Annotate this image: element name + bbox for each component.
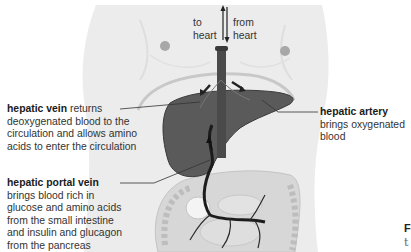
hepatic-artery-term: hepatic artery	[320, 106, 388, 117]
vena-cava-top	[215, 46, 228, 51]
hepatic-portal-vein-label: hepatic portal vein brings blood rich in…	[7, 177, 137, 252]
hepatic-artery-desc-2: blood	[320, 131, 411, 144]
hepatic-vein-term: hepatic vein	[7, 103, 67, 114]
hepatic-vein-desc-3: acids to enter the circulation	[7, 141, 157, 154]
portal-vein-desc-5: from the pancreas	[7, 240, 137, 252]
portal-vein-desc-4: and insulin and glucagon	[7, 227, 137, 240]
to-heart-label: to heart	[193, 17, 217, 42]
right-nipple	[280, 46, 290, 56]
portal-vein-desc-2: glucose and amino acids	[7, 202, 137, 215]
liver-blood-supply-diagram: to heart from heart hepatic vein returns…	[0, 0, 411, 252]
hepatic-vein-desc-2: circulation and allows amino	[7, 128, 157, 141]
hepatic-vein-label: hepatic vein returns deoxygenated blood …	[7, 103, 157, 153]
portal-vein-desc-3: from the small intestine	[7, 215, 137, 228]
to-heart-line-1: to	[193, 17, 217, 30]
cutoff-text-1: F	[404, 222, 411, 234]
vena-cava	[217, 48, 226, 158]
hepatic-vein-desc-inline: returns	[70, 103, 102, 114]
from-heart-label: from heart	[233, 17, 257, 42]
hepatic-artery-desc-1: brings oxygenated	[320, 119, 411, 132]
from-heart-line-1: from	[233, 17, 257, 30]
left-nipple	[160, 41, 170, 51]
portal-vein-term: hepatic portal vein	[7, 177, 99, 188]
cutoff-text-2: t	[404, 236, 408, 249]
hepatic-artery-label: hepatic artery brings oxygenated blood	[320, 106, 411, 144]
to-heart-line-2: heart	[193, 30, 217, 43]
portal-vein-desc-1: brings blood rich in	[7, 190, 137, 203]
from-heart-line-2: heart	[233, 30, 257, 43]
hepatic-vein-desc-1: deoxygenated blood to the	[7, 116, 157, 129]
